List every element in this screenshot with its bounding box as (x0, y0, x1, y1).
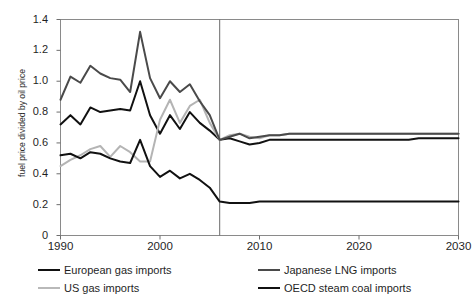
y-tick-label: 1.4 (14, 14, 48, 25)
legend-item-label: OECD steam coal imports (284, 282, 411, 294)
chart-legend: European gas importsUS gas importsJapane… (0, 262, 471, 301)
legend-item-label: European gas imports (64, 264, 172, 276)
legend-item[interactable]: US gas imports (38, 282, 139, 294)
y-tick-label: 1.2 (14, 44, 48, 55)
legend-line-icon (38, 287, 60, 289)
x-tick-label: 1990 (31, 240, 91, 252)
axis-tickmarks (57, 20, 459, 240)
y-tick-label: 0.2 (14, 199, 48, 210)
legend-line-icon (38, 269, 60, 271)
x-tick-label: 2020 (329, 240, 389, 252)
legend-line-icon (258, 287, 280, 289)
y-axis-tick-group: 00.20.40.60.81.01.21.4 (14, 0, 48, 301)
plot-frame (61, 20, 459, 236)
legend-item[interactable]: OECD steam coal imports (258, 282, 411, 294)
x-tick-label: 2030 (429, 240, 476, 252)
series-group (61, 32, 459, 203)
figure-title (0, 0, 471, 4)
legend-item-label: US gas imports (64, 282, 139, 294)
y-tick-label: 0.8 (14, 106, 48, 117)
legend-item-label: Japanese LNG imports (284, 264, 397, 276)
x-tick-label: 2000 (130, 240, 190, 252)
y-tick-label: 0.4 (14, 168, 48, 179)
legend-item[interactable]: Japanese LNG imports (258, 264, 397, 276)
legend-item[interactable]: European gas imports (38, 264, 172, 276)
y-tick-label: 1.0 (14, 75, 48, 86)
y-tick-label: 0.6 (14, 137, 48, 148)
legend-line-icon (258, 269, 280, 271)
y-tick-label: 0 (14, 230, 48, 241)
x-tick-label: 2010 (230, 240, 290, 252)
